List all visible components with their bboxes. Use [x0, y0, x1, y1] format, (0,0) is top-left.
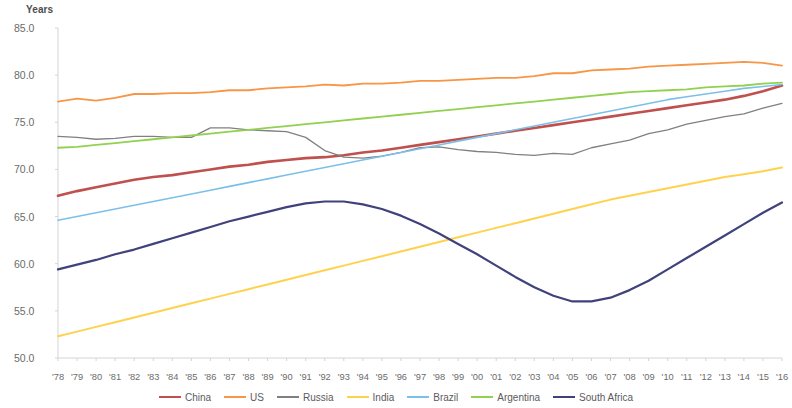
x-axis-tick: '01	[490, 372, 502, 382]
x-axis-tick: '15	[757, 372, 769, 382]
legend-item-brazil[interactable]: Brazil	[407, 392, 458, 403]
x-axis-tick: '92	[319, 372, 331, 382]
legend-swatch-icon	[553, 396, 575, 398]
x-axis-tick: '99	[452, 372, 464, 382]
x-axis-tick: '85	[185, 372, 197, 382]
legend-label: Russia	[303, 392, 334, 403]
x-axis-tick: '82	[128, 372, 140, 382]
legend-swatch-icon	[277, 396, 299, 398]
x-axis-tick: '06	[585, 372, 597, 382]
x-axis-tick: '04	[547, 372, 559, 382]
x-axis-tick: '10	[662, 372, 674, 382]
legend-swatch-icon	[224, 396, 246, 398]
legend-item-us[interactable]: US	[224, 392, 264, 403]
x-axis-tick: '87	[223, 372, 235, 382]
x-axis-tick: '02	[509, 372, 521, 382]
x-axis-tick: '88	[242, 372, 254, 382]
legend-item-russia[interactable]: Russia	[277, 392, 334, 403]
legend-label: South Africa	[579, 392, 633, 403]
legend-label: Brazil	[433, 392, 458, 403]
plot-area	[0, 0, 792, 408]
x-axis-tick: '89	[262, 372, 274, 382]
x-axis-tick-labels: '78'79'80'81'82'83'84'85'86'87'88'89'90'…	[0, 360, 792, 382]
x-axis-tick: '81	[109, 372, 121, 382]
series-line-us	[58, 62, 782, 102]
series-line-russia	[58, 103, 782, 158]
x-axis-tick: '14	[738, 372, 750, 382]
legend-item-argentina[interactable]: Argentina	[471, 392, 540, 403]
line-chart: Years 50.055.060.065.070.075.080.085.0 '…	[0, 0, 792, 408]
x-axis-tick: '93	[338, 372, 350, 382]
legend-swatch-icon	[471, 396, 493, 398]
series-line-china	[58, 86, 782, 196]
x-axis-tick: '16	[776, 372, 788, 382]
x-axis-tick: '83	[147, 372, 159, 382]
legend-label: US	[250, 392, 264, 403]
legend-swatch-icon	[347, 396, 369, 398]
x-axis-tick: '05	[566, 372, 578, 382]
x-axis-tick: '96	[395, 372, 407, 382]
x-axis-tick: '95	[376, 372, 388, 382]
x-axis-tick: '09	[643, 372, 655, 382]
legend-label: India	[373, 392, 395, 403]
legend-swatch-icon	[407, 396, 429, 398]
legend-label: China	[185, 392, 211, 403]
x-axis-tick: '84	[166, 372, 178, 382]
legend-label: Argentina	[497, 392, 540, 403]
x-axis-tick: '78	[52, 372, 64, 382]
legend-item-south-africa[interactable]: South Africa	[553, 392, 633, 403]
x-axis-tick: '00	[471, 372, 483, 382]
legend-item-china[interactable]: China	[159, 392, 211, 403]
legend-item-india[interactable]: India	[347, 392, 395, 403]
x-axis-tick: '13	[719, 372, 731, 382]
x-axis-tick: '98	[433, 372, 445, 382]
series-line-south-africa	[58, 201, 782, 301]
x-axis-tick: '03	[528, 372, 540, 382]
series-line-india	[58, 168, 782, 337]
series-line-brazil	[58, 85, 782, 221]
x-axis-tick: '12	[700, 372, 712, 382]
x-axis-tick: '86	[204, 372, 216, 382]
x-axis-tick: '90	[281, 372, 293, 382]
x-axis-tick: '94	[357, 372, 369, 382]
x-axis-tick: '97	[414, 372, 426, 382]
x-axis-tick: '08	[624, 372, 636, 382]
legend-swatch-icon	[159, 396, 181, 398]
series-lines	[58, 62, 782, 336]
x-axis-tick: '80	[90, 372, 102, 382]
x-axis-tick: '11	[681, 372, 692, 382]
x-axis-tick: '79	[71, 372, 83, 382]
x-axis-tick: '07	[604, 372, 616, 382]
chart-legend: ChinaUSRussiaIndiaBrazilArgentinaSouth A…	[0, 386, 792, 408]
x-axis-tick: '91	[300, 372, 312, 382]
